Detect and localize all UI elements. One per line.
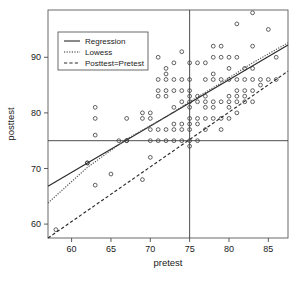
legend-label-regression: Regression	[85, 37, 125, 46]
legend: RegressionLowessPosttest=Pretest	[58, 32, 148, 70]
y-tick-label-70: 70	[31, 164, 41, 174]
y-tick-label-80: 80	[31, 108, 41, 118]
y-tick-label-60: 60	[31, 219, 41, 229]
x-tick-label-60: 60	[67, 244, 77, 254]
x-tick-label-85: 85	[263, 244, 273, 254]
x-tick-label-80: 80	[224, 244, 234, 254]
y-tick-label-90: 90	[31, 52, 41, 62]
legend-label-lowess: Lowess	[85, 48, 112, 57]
scatter-plot-figure: 60657075808560708090pretestposttestRegre…	[0, 0, 299, 281]
legend-label-posttest-pretest: Posttest=Pretest	[85, 59, 145, 68]
chart-canvas: 60657075808560708090pretestposttestRegre…	[0, 0, 299, 281]
x-tick-label-70: 70	[145, 244, 155, 254]
x-tick-label-65: 65	[106, 244, 116, 254]
y-axis-title: posttest	[5, 107, 16, 141]
x-tick-label-75: 75	[185, 244, 195, 254]
x-axis-title: pretest	[153, 257, 182, 268]
